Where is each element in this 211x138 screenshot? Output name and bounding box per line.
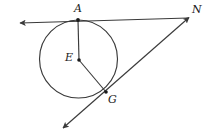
tangent-point-a-dot <box>76 18 80 22</box>
segment-ea <box>78 20 79 60</box>
secant-line-through-g-to-n <box>63 18 189 129</box>
geometry-figure: A N E G <box>0 0 211 138</box>
vertex-label-n: N <box>192 4 202 15</box>
segment-eg <box>79 60 106 92</box>
vertex-label-a: A <box>74 3 82 14</box>
geometry-canvas <box>0 0 211 138</box>
center-point-e-dot <box>77 58 81 62</box>
tangent-line-through-a <box>20 18 188 23</box>
vertex-label-e: E <box>65 52 73 63</box>
vertex-label-g: G <box>108 94 117 105</box>
